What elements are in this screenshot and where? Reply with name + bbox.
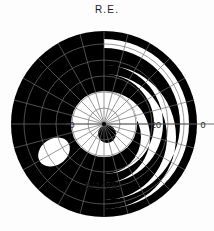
seeing-field-region: [0, 0, 214, 231]
axis-tick-label-0-left: 0: [69, 120, 74, 130]
target-size-label: 5/1000: [85, 180, 122, 192]
fixation-point: [102, 122, 106, 126]
visual-field-chart: R.E.: [0, 0, 214, 231]
axis-tick-label-0-right: 0: [200, 120, 205, 130]
axis-tick-label-20: 20: [151, 120, 161, 130]
perimetry-plot: 0 20 0 5/1000: [0, 0, 214, 231]
